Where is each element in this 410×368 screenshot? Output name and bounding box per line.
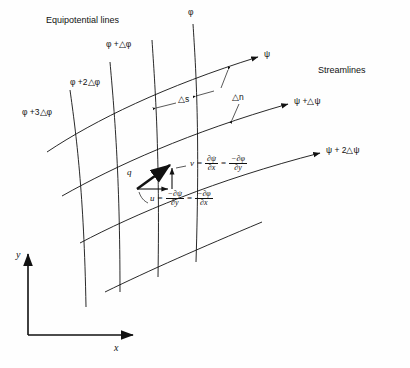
y-axis-label: y (16, 250, 20, 260)
equation-u-equals-1: = (158, 194, 163, 203)
label-phi0: φ (188, 8, 194, 17)
equation-u-term2-denominator: ∂x (195, 199, 213, 207)
streamline-psi1 (62, 104, 288, 196)
equation-u: u = −∂ψ ∂y = −∂φ ∂x (150, 190, 213, 208)
equation-v-lhs: v (190, 159, 194, 168)
label-psi1: ψ +△ψ (294, 97, 320, 106)
streamlines-title: Streamlines (318, 66, 366, 75)
coordinate-axes (28, 254, 133, 335)
label-phi1: φ +△φ (106, 40, 131, 49)
u-leader-line (139, 192, 148, 203)
equation-u-equals-2: = (187, 194, 192, 203)
equation-u-term1-denominator: ∂y (166, 199, 184, 207)
streamline-group (47, 57, 320, 292)
equipotential-phi1 (152, 40, 158, 277)
equation-v-term2: −∂φ ∂y (229, 155, 247, 173)
equation-u-lhs: u (150, 194, 155, 203)
equation-u-term2: −∂φ ∂x (195, 190, 213, 208)
equipotential-phi0 (193, 24, 198, 262)
equation-v-term1-denominator: ∂x (205, 164, 218, 172)
label-q: q (127, 168, 132, 177)
label-phi3: φ +3△φ (22, 108, 52, 117)
diagram-canvas (0, 0, 410, 368)
equation-v-equals-2: = (221, 159, 226, 168)
equipotential-group (70, 24, 198, 307)
equipotential-lines-title: Equipotential lines (46, 16, 119, 25)
equipotential-phi2 (110, 62, 120, 292)
equation-v-equals-1: = (197, 159, 202, 168)
velocity-vector-q (137, 165, 170, 189)
equation-v: v = ∂ψ ∂x = −∂φ ∂y (190, 155, 247, 173)
streamline-psi3-partial (105, 222, 262, 292)
label-psi0: ψ (264, 50, 270, 59)
flow-net-diagram: Equipotential lines Streamlines φ φ +△φ … (0, 0, 410, 368)
equation-u-term1: −∂ψ ∂y (166, 190, 184, 208)
v-leader-line (176, 166, 186, 168)
equipotential-phi3 (70, 90, 86, 307)
x-axis-label: x (114, 343, 118, 353)
equation-v-term2-denominator: ∂y (229, 164, 247, 172)
equation-v-term1: ∂ψ ∂x (205, 155, 218, 173)
label-phi2: φ +2△φ (70, 78, 100, 87)
label-psi2: ψ + 2△ψ (326, 146, 360, 155)
label-delta-s: △s (178, 95, 189, 104)
label-delta-n: △n (232, 93, 244, 102)
streamline-psi0 (47, 57, 258, 152)
